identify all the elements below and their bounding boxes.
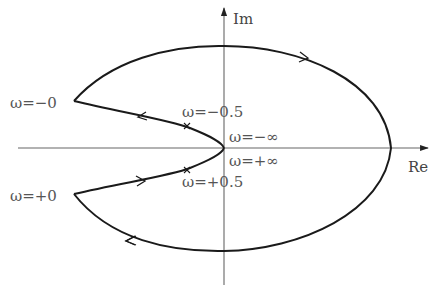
label-omega-plus-inf: ω=+∞ [229, 152, 279, 170]
imag-axis-label: Im [233, 10, 253, 28]
label-omega-minus-zero: ω=−0 [10, 94, 57, 112]
direction-arrow-bottom [126, 236, 136, 245]
label-omega-plus-half: ω=+0.5 [182, 173, 243, 191]
label-omega-plus-zero: ω=+0 [10, 187, 57, 205]
real-axis-label: Re [408, 158, 428, 176]
nyquist-diagram: Im Re ω=−0 ω=+0 ω=−0.5 ω=−∞ ω=+∞ ω=+0.5 [0, 0, 440, 289]
label-omega-minus-inf: ω=−∞ [229, 128, 279, 146]
label-omega-minus-half: ω=−0.5 [182, 103, 243, 121]
